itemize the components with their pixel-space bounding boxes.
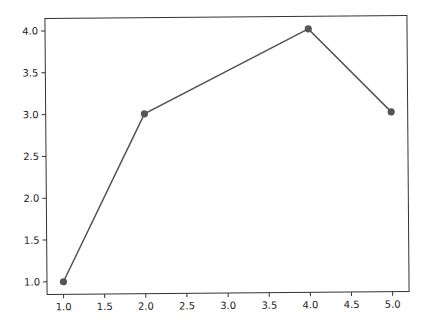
y-tick-label: 1.0 xyxy=(24,276,40,287)
data-point-marker xyxy=(141,110,148,117)
y-tick-label: 3.5 xyxy=(22,67,38,78)
y-axis-ticks: 1.01.52.02.53.03.54.0 xyxy=(22,25,47,287)
data-point-marker xyxy=(60,278,67,285)
x-tick-label: 2.0 xyxy=(138,301,154,312)
x-tick-label: 4.0 xyxy=(302,299,318,310)
x-tick-label: 1.0 xyxy=(56,301,72,312)
plot-area: 1.01.52.02.53.03.54.04.55.0 1.01.52.02.5… xyxy=(22,16,409,313)
series-layer xyxy=(58,25,396,286)
x-tick-label: 2.5 xyxy=(179,300,195,311)
y-tick-label: 3.0 xyxy=(23,109,39,120)
x-tick-label: 5.0 xyxy=(385,299,401,310)
x-tick-label: 3.0 xyxy=(220,300,236,311)
x-tick-label: 3.5 xyxy=(261,300,277,311)
chart-canvas: 1.01.52.02.53.03.54.04.55.0 1.01.52.02.5… xyxy=(0,0,430,325)
x-tick-label: 1.5 xyxy=(97,301,113,312)
y-tick-label: 2.0 xyxy=(23,193,39,204)
axes-frame xyxy=(45,16,409,295)
y-tick-label: 4.0 xyxy=(22,26,38,37)
data-point-marker xyxy=(305,25,312,32)
data-point-marker xyxy=(388,108,395,115)
y-tick-label: 2.5 xyxy=(23,151,39,162)
series-line xyxy=(61,28,392,281)
x-tick-label: 4.5 xyxy=(344,299,360,310)
x-axis-ticks: 1.01.52.02.53.03.54.04.55.0 xyxy=(56,292,401,313)
y-tick-label: 1.5 xyxy=(24,235,40,246)
line-chart: 1.01.52.02.53.03.54.04.55.0 1.01.52.02.5… xyxy=(0,0,430,325)
